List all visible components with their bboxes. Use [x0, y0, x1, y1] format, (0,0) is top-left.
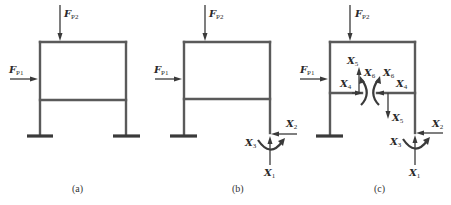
fp1-subscript: P1	[307, 69, 315, 77]
svg-text:FP2: FP2	[208, 8, 224, 21]
caption-a: (a)	[72, 183, 83, 195]
svg-text:FP2: FP2	[354, 8, 370, 21]
svg-text:FP1: FP1	[153, 64, 169, 77]
left-arrow-icon	[376, 91, 384, 96]
frame-b	[170, 42, 270, 136]
redundant-x5-down: X5	[386, 93, 404, 125]
svg-text:X1: X1	[263, 167, 276, 180]
svg-text:X4: X4	[395, 78, 408, 91]
svg-text:X1: X1	[408, 167, 421, 180]
load-fp1: FP1	[299, 64, 328, 82]
redundant-x1: X1	[263, 136, 276, 180]
redundant-x6-right: X6	[373, 67, 395, 105]
x4-subscript: 4	[404, 83, 408, 91]
caption-c: (c)	[374, 183, 385, 195]
svg-text:X6: X6	[363, 67, 376, 80]
load-fp1: FP1	[153, 64, 182, 82]
load-fp2: FP2	[203, 5, 225, 41]
x1-subscript: 1	[272, 172, 276, 180]
svg-text:X2: X2	[431, 118, 444, 131]
svg-text:X5: X5	[391, 112, 404, 125]
panel-b: FP2 FP1 X2 X1 X3 (b)	[153, 5, 298, 195]
fp1-subscript: P1	[161, 69, 169, 77]
x4-subscript: 4	[348, 83, 352, 91]
redundant-x3: X3	[244, 137, 285, 150]
redundant-x2: X2	[271, 118, 298, 137]
svg-text:X3: X3	[244, 137, 257, 150]
panel-a: FP2 FP1 (a)	[8, 5, 140, 195]
redundant-x1: X1	[408, 135, 421, 180]
x1-subscript: 1	[417, 172, 421, 180]
redundant-x6-left: X6	[359, 67, 376, 105]
x2-subscript: 2	[294, 123, 298, 131]
svg-text:X5: X5	[346, 55, 359, 68]
svg-text:X3: X3	[389, 136, 402, 149]
svg-text:X6: X6	[382, 67, 395, 80]
fp2-subscript: P2	[216, 13, 224, 21]
panel-c: FP2 FP1 X4 X4 X5 X5 X	[299, 5, 444, 195]
x5-subscript: 5	[355, 60, 359, 68]
svg-text:X4: X4	[339, 78, 352, 91]
fp2-subscript: P2	[71, 13, 79, 21]
svg-text:X2: X2	[285, 118, 298, 131]
x2-subscript: 2	[440, 123, 444, 131]
frame-a	[27, 42, 140, 136]
svg-text:FP1: FP1	[8, 64, 24, 77]
x3-subscript: 3	[398, 141, 402, 149]
caption-b: (b)	[232, 183, 244, 195]
load-fp1: FP1	[8, 64, 38, 82]
fp2-subscript: P2	[362, 13, 370, 21]
svg-text:FP2: FP2	[63, 8, 79, 21]
svg-text:FP1: FP1	[299, 64, 315, 77]
x6-subscript: 6	[391, 72, 395, 80]
x6-subscript: 6	[372, 72, 376, 80]
load-fp2: FP2	[58, 5, 80, 41]
x3-subscript: 3	[253, 142, 257, 150]
fp1-subscript: P1	[16, 69, 24, 77]
redundant-x2: X2	[416, 118, 444, 136]
x5-subscript: 5	[400, 117, 404, 125]
load-fp2: FP2	[348, 5, 371, 41]
frame-diagrams: FP2 FP1 (a) FP2 FP1	[0, 0, 451, 205]
redundant-x3: X3	[389, 136, 430, 149]
